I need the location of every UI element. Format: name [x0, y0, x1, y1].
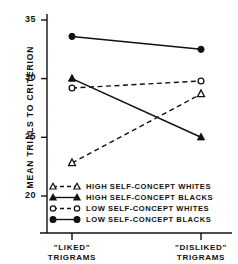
- legend-marker-low-blacks-left: [50, 217, 56, 223]
- legend-marker-low-whites-left: [50, 206, 55, 211]
- legend-markers: [50, 183, 80, 222]
- legend-marker-low-blacks-right: [74, 217, 80, 223]
- datapoint-high-whites-liked: [69, 159, 76, 166]
- legend-marker-high-whites-left: [50, 183, 56, 189]
- x-category-liked-line2: TRIGRAMS: [22, 253, 122, 263]
- chart-figure: MEAN TRIALS TO CRITERION 35 30 25 20 "LI…: [0, 0, 238, 264]
- legend-label-low-self-concept-whites: LOW SELF-CONCEPT WHITES: [86, 204, 209, 213]
- x-category-liked-line1: "LIKED": [22, 243, 122, 253]
- legend-label-high-self-concept-blacks: HIGH SELF-CONCEPT BLACKS: [86, 193, 213, 202]
- datapoint-low-whites-disliked: [198, 78, 204, 84]
- y-tick-label-20: 20: [14, 190, 36, 200]
- x-category-disliked-line1: "DISLIKED": [151, 243, 238, 253]
- datapoint-low-blacks-liked: [69, 33, 75, 39]
- series-high-self-concept-blacks: [69, 75, 205, 140]
- datapoint-high-whites-disliked: [198, 90, 205, 97]
- x-category-disliked-line2: TRIGRAMS: [151, 253, 238, 263]
- legend-label-high-self-concept-whites: HIGH SELF-CONCEPT WHITES: [86, 182, 211, 191]
- y-tick-label-35: 35: [14, 14, 36, 24]
- legend-marker-low-whites-right: [74, 206, 79, 211]
- datapoint-low-blacks-disliked: [198, 46, 204, 52]
- legend-marker-high-blacks-right: [74, 194, 80, 200]
- series-line-low-whites: [72, 81, 201, 88]
- datapoint-high-blacks-liked: [69, 75, 76, 82]
- legend-marker-high-blacks-left: [50, 194, 56, 200]
- y-tick-label-30: 30: [14, 72, 36, 82]
- legend-label-low-self-concept-blacks: LOW SELF-CONCEPT BLACKS: [86, 215, 211, 224]
- y-tick-label-25: 25: [14, 131, 36, 141]
- y-axis-title: MEAN TRIALS TO CRITERION: [25, 32, 35, 202]
- series-high-self-concept-whites: [69, 90, 205, 166]
- legend-marker-high-whites-right: [74, 183, 80, 189]
- series-line-low-blacks: [72, 36, 201, 49]
- datapoint-low-whites-liked: [69, 85, 75, 91]
- series-low-self-concept-whites: [69, 78, 204, 91]
- series-low-self-concept-blacks: [69, 33, 204, 52]
